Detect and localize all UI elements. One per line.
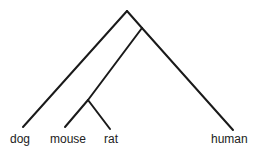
edge-rodent-mouse (65, 100, 88, 127)
leaf-label-human: human (211, 132, 248, 146)
leaf-label-rat: rat (104, 132, 119, 146)
edge-inner-human (142, 28, 233, 130)
leaf-label-dog: dog (10, 132, 30, 146)
edge-inner-rodent (88, 28, 142, 100)
leaf-label-mouse: mouse (50, 132, 86, 146)
edge-root-inner (127, 11, 142, 28)
edge-rodent-rat (88, 100, 110, 129)
phylogenetic-tree: dog mouse rat human (0, 0, 264, 152)
